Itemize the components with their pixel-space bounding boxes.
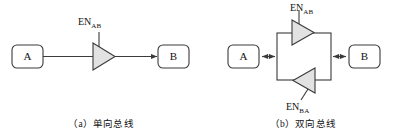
buffer-triangle-ab	[93, 43, 115, 70]
node-label-b: B	[349, 51, 380, 62]
bus-loop-rectangle	[277, 33, 331, 80]
enable-prefix: EN	[290, 2, 303, 13]
enable-label-ab: ENAB	[78, 17, 101, 30]
enable-label-ab: ENAB	[290, 3, 313, 16]
enable-prefix: EN	[286, 101, 299, 112]
buffer-triangle-ab	[292, 20, 314, 45]
node-label-b: B	[158, 51, 189, 62]
buffer-triangle-ba	[293, 68, 315, 93]
enable-label-ba: ENBA	[286, 102, 309, 115]
figure-root: A B ENAB （a）单向总线	[0, 0, 404, 140]
panel-unidirectional-bus: A B ENAB （a）单向总线	[0, 0, 202, 140]
node-label-a: A	[12, 51, 43, 62]
panel-bidirectional-bus: A B ENAB ENBA （b）双向总线	[202, 0, 404, 140]
caption-panel-a: （a）单向总线	[0, 116, 202, 130]
enable-prefix: EN	[78, 16, 91, 27]
enable-stub-ba	[301, 89, 308, 100]
node-label-a: A	[228, 51, 259, 62]
enable-subscript: AB	[91, 22, 101, 30]
enable-subscript: BA	[299, 107, 309, 115]
enable-subscript: AB	[303, 8, 313, 16]
caption-panel-b: （b）双向总线	[202, 116, 404, 130]
